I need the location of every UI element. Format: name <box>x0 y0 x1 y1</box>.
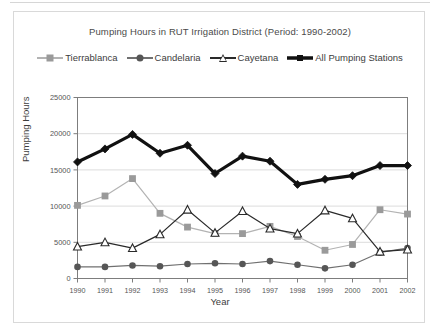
legend-key-tierrablanca <box>37 52 63 64</box>
data-point[interactable] <box>321 175 329 183</box>
data-point[interactable] <box>74 202 81 209</box>
data-point[interactable] <box>129 262 136 269</box>
x-tick-label: 2001 <box>372 286 388 295</box>
data-point[interactable] <box>349 261 356 268</box>
data-point[interactable] <box>239 230 246 237</box>
y-tick-label: 10000 <box>50 202 71 211</box>
chart-container: Pumping Hours in RUT Irrigation District… <box>13 11 425 323</box>
x-axis-label: Year <box>14 296 426 307</box>
legend-item-all-pumping-stations[interactable]: All Pumping Stations <box>287 52 403 64</box>
page-top-rule <box>10 2 430 3</box>
x-tick-label: 1991 <box>97 286 113 295</box>
data-point[interactable] <box>376 162 384 170</box>
legend-item-candelaria[interactable]: Candelaria <box>127 52 201 64</box>
triangle-marker-icon <box>219 54 227 62</box>
x-tick-label: 1998 <box>290 286 306 295</box>
series-candelaria <box>74 245 411 272</box>
plot-frame <box>78 98 408 279</box>
legend-item-cayetana[interactable]: Cayetana <box>210 52 279 64</box>
data-point[interactable] <box>102 193 109 200</box>
data-point[interactable] <box>294 261 301 268</box>
legend-key-all-pumping-stations <box>287 52 313 64</box>
data-point[interactable] <box>157 263 164 270</box>
data-point[interactable] <box>404 162 412 170</box>
data-point[interactable] <box>322 247 329 254</box>
x-tick-label: 1997 <box>262 286 278 295</box>
y-tick-label: 5000 <box>54 238 70 247</box>
data-point[interactable] <box>349 241 356 248</box>
data-point[interactable] <box>129 175 136 182</box>
data-point[interactable] <box>267 258 274 265</box>
x-tick-label: 1994 <box>180 286 196 295</box>
y-tick-label: 15000 <box>50 166 71 175</box>
x-tick-label: 1999 <box>317 286 333 295</box>
plot-area-wrapper: Pumping Hours 0500010000150002000025000 … <box>14 70 426 324</box>
legend-label-tierrablanca: Tierrablanca <box>65 52 117 64</box>
data-point[interactable] <box>184 261 191 268</box>
data-point[interactable] <box>184 206 192 214</box>
legend-key-cayetana <box>210 52 236 64</box>
data-series-layer <box>74 130 412 271</box>
gridlines <box>78 98 408 243</box>
square-marker-icon <box>47 55 54 62</box>
x-tick-label: 1995 <box>207 286 223 295</box>
data-point[interactable] <box>157 210 164 217</box>
x-tick-label: 2002 <box>400 286 416 295</box>
legend-label-all-pumping-stations: All Pumping Stations <box>315 52 403 64</box>
y-tick-label: 0 <box>66 274 70 283</box>
x-tick-label: 1992 <box>125 286 141 295</box>
legend-label-cayetana: Cayetana <box>238 52 279 64</box>
data-point[interactable] <box>212 260 219 267</box>
series-all-pumping-stations <box>74 130 412 188</box>
data-point[interactable] <box>239 207 247 215</box>
chart-legend: Tierrablanca Candelaria Cayetana <box>14 52 426 64</box>
data-point[interactable] <box>184 224 191 231</box>
circle-marker-icon <box>136 55 143 62</box>
diamond-marker-icon <box>297 55 303 61</box>
data-point[interactable] <box>102 264 109 271</box>
legend-item-tierrablanca[interactable]: Tierrablanca <box>37 52 117 64</box>
y-tick-label: 20000 <box>50 129 71 138</box>
x-tick-label: 2000 <box>345 286 361 295</box>
data-point[interactable] <box>377 206 384 213</box>
x-tick-label: 1990 <box>70 286 86 295</box>
y-axis-ticks: 0500010000150002000025000 <box>50 93 78 283</box>
legend-label-candelaria: Candelaria <box>155 52 201 64</box>
data-point[interactable] <box>74 264 81 271</box>
data-point[interactable] <box>239 261 246 268</box>
chart-title: Pumping Hours in RUT Irrigation District… <box>14 26 426 37</box>
x-axis-ticks: 1990199119921993199419951996199719981999… <box>70 279 416 295</box>
data-point[interactable] <box>322 265 329 272</box>
legend-key-candelaria <box>127 52 153 64</box>
data-point[interactable] <box>321 206 329 214</box>
data-point[interactable] <box>349 172 357 180</box>
x-tick-label: 1996 <box>235 286 251 295</box>
x-tick-label: 1993 <box>152 286 168 295</box>
data-point[interactable] <box>404 211 411 218</box>
y-tick-label: 25000 <box>50 93 71 102</box>
chart-plot: 0500010000150002000025000 19901991199219… <box>14 70 426 302</box>
